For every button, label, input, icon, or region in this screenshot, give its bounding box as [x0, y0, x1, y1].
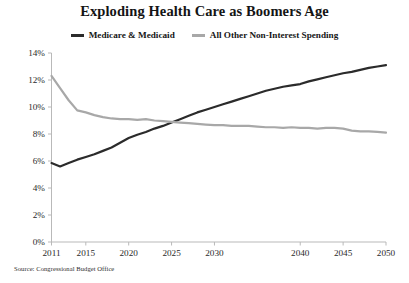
- x-axis-tick-label: 2030: [205, 248, 224, 258]
- y-axis-tick-label: 4%: [33, 183, 46, 193]
- x-axis-tick-label: 2025: [162, 248, 181, 258]
- chart-figure: Exploding Health Care as Boomers Age Med…: [0, 0, 409, 283]
- data-series-group: [52, 65, 387, 166]
- y-axis-tick-label: 14%: [28, 48, 45, 58]
- y-axis-tick-label: 10%: [28, 102, 45, 112]
- x-axis-tick-label: 2011: [42, 248, 60, 258]
- y-axis-tick-label: 8%: [33, 129, 46, 139]
- y-axis-tick-label: 12%: [28, 75, 45, 85]
- y-axis-tick-label: 6%: [33, 156, 46, 166]
- x-axis-tick-label: 2015: [77, 248, 96, 258]
- y-axis: 0%2%4%6%8%10%12%14%: [28, 48, 51, 247]
- x-axis-tick-label: 2045: [334, 248, 353, 258]
- x-axis-tick-label: 2040: [291, 248, 310, 258]
- x-axis: 20112015202020252030204020452050: [42, 242, 395, 258]
- series-line-all-other-non-interest-spending: [52, 76, 387, 133]
- y-axis-tick-label: 0%: [33, 237, 46, 247]
- source-note: Source: Congressional Budget Office: [14, 265, 114, 272]
- x-axis-tick-label: 2020: [120, 248, 139, 258]
- y-axis-tick-label: 2%: [33, 210, 46, 220]
- x-axis-tick-label: 2050: [377, 248, 396, 258]
- plot-area: 0%2%4%6%8%10%12%14% 20112015202020252030…: [0, 0, 409, 283]
